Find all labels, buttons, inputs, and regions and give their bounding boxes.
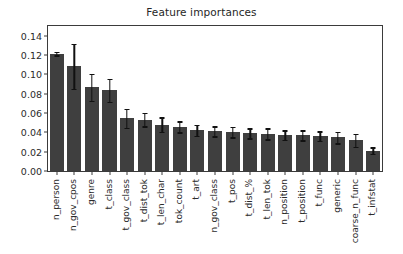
bar-group[interactable] [67, 26, 81, 171]
error-bar-cap [212, 126, 217, 127]
bar-group[interactable] [261, 26, 275, 171]
x-axis-tick-mark [302, 171, 303, 175]
bar-group[interactable] [278, 26, 292, 171]
error-bar-cap [107, 102, 112, 103]
x-axis-tick-mark [197, 171, 198, 175]
y-axis-tick-mark [44, 74, 48, 75]
x-axis-tick-label: t_gov_class [121, 179, 131, 230]
error-bar-cap [248, 138, 253, 139]
error-bar [302, 130, 303, 140]
bar-group[interactable] [366, 26, 380, 171]
bar-group[interactable] [120, 26, 134, 171]
error-bar-cap [195, 125, 200, 126]
plot-area: 0.000.020.040.060.080.100.120.14 [48, 26, 382, 171]
error-bar-cap [371, 154, 376, 155]
bar-group[interactable] [190, 26, 204, 171]
y-axis-tick-label: 0.00 [21, 166, 42, 177]
y-axis-tick-label: 0.10 [21, 69, 42, 80]
error-bar-cap [283, 140, 288, 141]
x-axis-tick-label: t_func [314, 179, 324, 207]
error-bar [109, 79, 110, 102]
x-axis-tick-label: n_gov_class [209, 179, 219, 233]
x-axis-tick-mark [162, 171, 163, 175]
y-axis-tick-label: 0.02 [21, 146, 42, 157]
error-bar-cap [72, 44, 77, 45]
error-bar-cap [125, 109, 130, 110]
error-bar [197, 125, 198, 136]
x-axis-tick-label: t_len_char [156, 179, 166, 225]
error-bar-cap [160, 117, 165, 118]
x-axis-tick-mark [373, 171, 374, 175]
error-bar [144, 113, 145, 127]
figure: Feature importances 0.000.020.040.060.08… [0, 0, 403, 254]
x-axis-tick-mark [267, 171, 268, 175]
y-axis-tick-mark [44, 113, 48, 114]
x-axis-tick-label: t_dist_tok [139, 179, 149, 222]
error-bar-cap [142, 126, 147, 127]
error-bar-cap [107, 79, 112, 80]
y-axis-tick-mark [44, 151, 48, 152]
error-bar [232, 127, 233, 137]
bar-group[interactable] [138, 26, 152, 171]
y-axis-tick-mark [44, 93, 48, 94]
x-axis-tick-mark [127, 171, 128, 175]
x-axis-tick-mark [250, 171, 251, 175]
bar-group[interactable] [155, 26, 169, 171]
bar-group[interactable] [243, 26, 257, 171]
x-axis-tick-mark [74, 171, 75, 175]
y-axis-tick-mark [44, 171, 48, 172]
error-bar-cap [300, 130, 305, 131]
error-bar-cap [177, 132, 182, 133]
x-axis-tick-label: t_len_tok [262, 179, 272, 220]
bar-group[interactable] [50, 26, 64, 171]
x-axis-tick-label: n_position [279, 179, 289, 225]
error-bar [355, 134, 356, 147]
error-bar-cap [230, 137, 235, 138]
error-bar-cap [336, 143, 341, 144]
error-bar-cap [265, 128, 270, 129]
x-axis-tick-label: generic [332, 179, 342, 213]
error-bar-cap [54, 52, 59, 53]
error-bar-cap [89, 101, 94, 102]
x-axis-tick-label: t_art [191, 179, 201, 200]
error-bar-cap [177, 121, 182, 122]
error-bar-cap [265, 139, 270, 140]
error-bar [214, 126, 215, 136]
error-bar [91, 74, 92, 100]
x-axis-tick-label: n_person [51, 179, 61, 220]
error-bar [179, 121, 180, 132]
x-axis-tick-label: coarse_n_func [350, 179, 360, 243]
x-axis-tick-mark [320, 171, 321, 175]
x-axis-tick-mark [91, 171, 92, 175]
bar-group[interactable] [226, 26, 240, 171]
x-axis-tick-label: t_infstat [367, 179, 377, 216]
error-bar-cap [212, 136, 217, 137]
error-bar [285, 130, 286, 140]
y-axis-tick-label: 0.14 [21, 30, 42, 41]
plot-frame: 0.000.020.040.060.080.100.120.14 [47, 25, 383, 172]
bar-group[interactable] [173, 26, 187, 171]
error-bar-cap [371, 147, 376, 148]
y-axis-tick-label: 0.12 [21, 50, 42, 61]
error-bar-cap [300, 140, 305, 141]
bar-group[interactable] [85, 26, 99, 171]
bar-group[interactable] [313, 26, 327, 171]
bar-group[interactable] [296, 26, 310, 171]
bar-group[interactable] [349, 26, 363, 171]
error-bar [337, 132, 338, 144]
bar[interactable] [50, 54, 64, 171]
bar-group[interactable] [331, 26, 345, 171]
bar-group[interactable] [208, 26, 222, 171]
y-axis-tick-label: 0.06 [21, 108, 42, 119]
error-bar-cap [353, 134, 358, 135]
error-bar [249, 128, 250, 138]
x-axis-tick-mark [355, 171, 356, 175]
x-axis-tick-label: t_position [297, 179, 307, 223]
x-axis-tick-mark [179, 171, 180, 175]
y-axis-tick-mark [44, 55, 48, 56]
y-axis-tick-label: 0.08 [21, 88, 42, 99]
bar-group[interactable] [102, 26, 116, 171]
x-axis-tick-mark [285, 171, 286, 175]
x-axis-tick-mark [144, 171, 145, 175]
x-axis-tick-mark [56, 171, 57, 175]
